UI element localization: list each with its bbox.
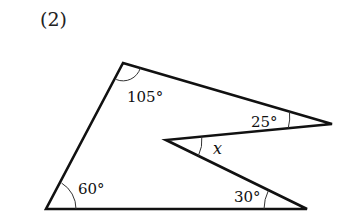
angle-label-bottom-left: 60°: [78, 180, 105, 198]
angle-label-bottom-right: 30°: [234, 188, 261, 206]
angle-arc-inner: [198, 137, 202, 156]
angle-arc-right-tip: [288, 112, 290, 129]
angle-label-right-tip: 25°: [251, 113, 278, 131]
angle-label-inner-x: x: [213, 139, 222, 158]
angle-arc-bottom-left: [62, 183, 77, 209]
angle-label-top: 105°: [127, 88, 163, 106]
geometry-figure: 105° 25° x 30° 60°: [0, 0, 353, 220]
angle-arc-bottom-right: [264, 191, 268, 210]
